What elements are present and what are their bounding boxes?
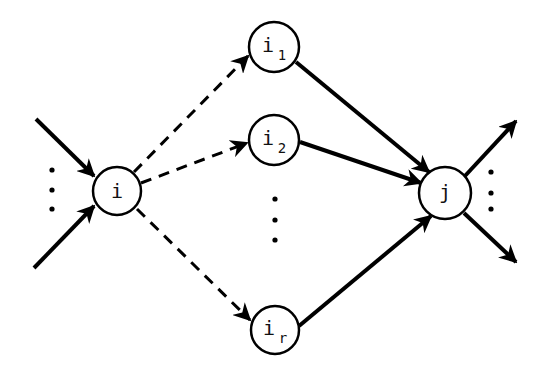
node-j: j	[419, 167, 471, 219]
diagram-canvas: i i 1 i 2 i r j	[0, 0, 543, 376]
node-ir-subscript: r	[279, 330, 287, 346]
node-i2-subscript: 2	[278, 140, 286, 156]
node-j-label: j	[439, 180, 451, 204]
node-i2: i 2	[249, 115, 299, 165]
edge-in-top-to-i	[36, 119, 94, 176]
edge-i-to-i1	[134, 56, 248, 172]
edge-ir-to-j	[299, 216, 431, 326]
ellipsis-between-i2-and-ir	[272, 196, 277, 242]
node-i: i	[93, 167, 141, 215]
node-i1-label: i	[262, 33, 274, 57]
edge-i-to-i2	[141, 143, 247, 183]
node-i2-label: i	[262, 126, 274, 150]
node-ir-label: i	[263, 316, 275, 340]
node-i-label: i	[111, 179, 123, 203]
ellipsis-left-of-i	[49, 167, 54, 211]
edge-i-to-ir	[137, 209, 250, 320]
edge-i1-to-j	[296, 62, 429, 172]
node-i1: i 1	[249, 22, 299, 72]
edge-j-to-out-bottom	[464, 213, 516, 262]
node-ir: i r	[251, 306, 299, 354]
graph-svg: i i 1 i 2 i r j	[0, 0, 543, 376]
edge-in-bottom-to-i	[34, 206, 94, 268]
node-i1-subscript: 1	[278, 47, 286, 63]
ellipsis-right-of-j	[488, 169, 493, 211]
edge-j-to-out-top	[464, 121, 516, 177]
